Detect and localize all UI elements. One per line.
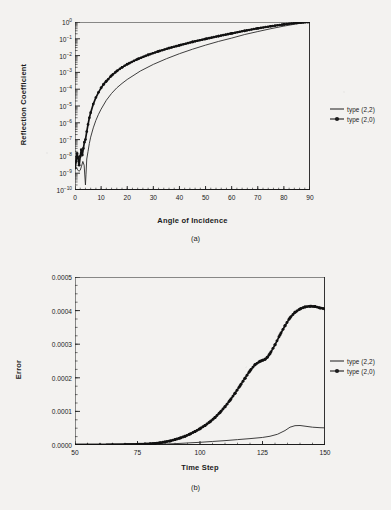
panel-b-series-type20-markers	[75, 305, 325, 445]
legend-item-type22: type (2,2)	[330, 104, 375, 114]
panel-b-ytick-label: 0.0002	[20, 374, 72, 381]
panel-b-xtick-label: 100	[194, 449, 205, 456]
legend-line-icon	[330, 105, 344, 113]
panel-b-ylabel: Error	[14, 340, 23, 400]
panel-a-ytick-label: 10−8	[28, 152, 72, 160]
panel-a-ytick-label: 10−4	[28, 85, 72, 93]
panel-a-xtick-label: 40	[176, 194, 183, 201]
panel-a-xtick-label: 30	[150, 194, 157, 201]
panel-a-ytick-label: 10−9	[28, 169, 72, 177]
panel-a-caption: (a)	[0, 234, 391, 243]
panel-b: Error 0.00000.00010.00020.00030.00040.00…	[0, 255, 391, 510]
figure-page: { "figure": { "background_color": "#f3f2…	[0, 0, 391, 510]
panel-b-xtick-label: 150	[319, 449, 330, 456]
panel-a-xtick-label: 70	[254, 194, 261, 201]
panel-b-xtick-label: 125	[257, 449, 268, 456]
panel-a: Reflection Coefficient 10010−110−210−310…	[0, 0, 391, 255]
panel-a-plot	[75, 22, 310, 190]
panel-a-xtick-label: 10	[97, 194, 104, 201]
panel-a-ytick-label: 10−10	[28, 186, 72, 194]
panel-a-xtick-label: 50	[202, 194, 209, 201]
panel-b-svg	[75, 277, 325, 445]
panel-a-xlabel: Angle of Incidence	[75, 216, 310, 225]
legend-label-type20: type (2,0)	[347, 116, 375, 123]
panel-a-ytick-label: 10−7	[28, 136, 72, 144]
legend-item-type20: type (2,0)	[330, 114, 375, 124]
panel-a-xtick-label: 90	[306, 194, 313, 201]
legend-item-type22: type (2,2)	[330, 356, 375, 366]
panel-a-ylabel: Reflection Coefficient	[19, 50, 28, 160]
panel-b-ticks	[75, 277, 325, 445]
panel-a-series-type22	[75, 22, 310, 185]
legend-line-marker-icon	[330, 367, 344, 375]
legend-line-marker-icon	[330, 115, 344, 123]
panel-a-ytick-label: 10−5	[28, 102, 72, 110]
panel-b-ytick-label: 0.0003	[20, 341, 72, 348]
panel-b-ytick-label: 0.0004	[20, 307, 72, 314]
legend-line-icon	[330, 357, 344, 365]
panel-a-xtick-label: 80	[280, 194, 287, 201]
panel-a-xtick-label: 0	[73, 194, 77, 201]
panel-a-svg	[75, 22, 310, 190]
panel-a-xtick-label: 60	[228, 194, 235, 201]
panel-b-xlabel: Time Step	[75, 463, 325, 472]
panel-b-caption: (b)	[0, 483, 391, 492]
panel-a-ticks	[75, 22, 310, 190]
panel-b-plot	[75, 277, 325, 445]
legend-label-type22: type (2,2)	[347, 106, 375, 113]
panel-b-series-type20	[75, 306, 325, 445]
panel-b-ytick-label: 0.0000	[20, 442, 72, 449]
panel-b-legend: type (2,2) type (2,0)	[330, 356, 375, 376]
legend-label-type22: type (2,2)	[347, 358, 375, 365]
panel-a-ytick-label: 10−2	[28, 52, 72, 60]
panel-b-xtick-label: 75	[134, 449, 141, 456]
panel-a-legend: type (2,2) type (2,0)	[330, 104, 375, 124]
panel-a-ytick-label: 100	[28, 18, 72, 26]
legend-label-type20: type (2,0)	[347, 368, 375, 375]
panel-a-xtick-label: 20	[124, 194, 131, 201]
legend-item-type20: type (2,0)	[330, 366, 375, 376]
panel-b-ytick-label: 0.0005	[20, 274, 72, 281]
panel-b-ytick-label: 0.0001	[20, 408, 72, 415]
panel-b-xtick-label: 50	[71, 449, 78, 456]
panel-a-ytick-label: 10−6	[28, 119, 72, 127]
panel-a-ytick-label: 10−1	[28, 35, 72, 43]
panel-a-ytick-label: 10−3	[28, 68, 72, 76]
